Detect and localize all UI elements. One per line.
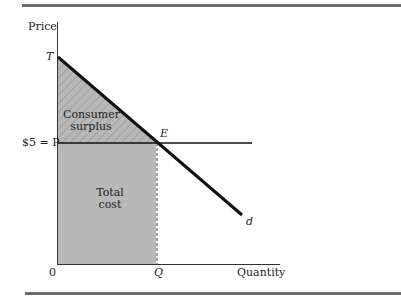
consumer-surplus-line2: surplus	[63, 121, 119, 133]
surplus-diagram	[0, 0, 401, 301]
price-level-label: $5 = P	[22, 137, 60, 149]
origin-label: 0	[49, 267, 56, 279]
d-label: d	[246, 216, 253, 228]
q-label: Q	[154, 267, 163, 279]
y-axis-label: Price	[28, 21, 57, 33]
x-axis-label: Quantity	[237, 267, 285, 279]
e-label: E	[160, 128, 168, 140]
total-cost-label: Total cost	[85, 187, 135, 211]
total-cost-line2: cost	[85, 199, 135, 211]
consumer-surplus-label: Consumer surplus	[63, 109, 119, 133]
t-label: T	[46, 51, 53, 63]
